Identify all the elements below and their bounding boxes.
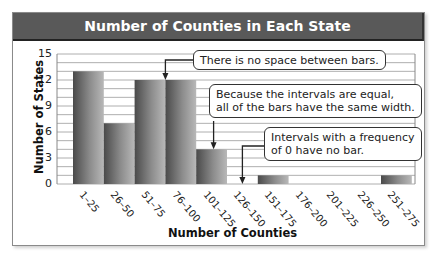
histogram-bar: [196, 149, 227, 184]
callout-connector: [165, 60, 193, 74]
histogram-bar: [381, 175, 412, 184]
callout-equal-width: Because the intervals are equal, all of …: [209, 84, 422, 118]
histogram-bar: [104, 123, 135, 184]
x-axis-label: Number of Counties: [168, 226, 297, 240]
arrowhead-icon: [162, 73, 168, 80]
histogram-bar: [258, 175, 289, 184]
callout-zero-frequency: Intervals with a frequency of 0 have no …: [264, 127, 422, 161]
histogram-bar: [73, 71, 104, 184]
histogram-bar: [135, 80, 166, 184]
y-tick-label: 0: [32, 177, 52, 190]
y-tick-label: 15: [32, 47, 52, 60]
callout-zero-frequency-line2: of 0 have no bar.: [271, 144, 415, 157]
callout-connector: [242, 146, 264, 178]
callout-zero-frequency-line1: Intervals with a frequency: [271, 131, 415, 144]
callout-no-space-text: There is no space between bars.: [200, 54, 379, 67]
arrowhead-icon: [211, 142, 217, 149]
callout-equal-width-line2: all of the bars have the same width.: [216, 101, 415, 114]
callout-no-space: There is no space between bars.: [193, 50, 386, 70]
histogram-bar: [165, 80, 196, 184]
arrowhead-icon: [239, 177, 245, 184]
callout-equal-width-line1: Because the intervals are equal,: [216, 88, 415, 101]
y-axis-label: Number of States: [32, 64, 46, 174]
